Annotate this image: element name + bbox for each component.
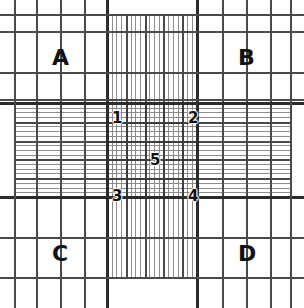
grid-line-vertical-bold	[106, 0, 109, 308]
grid-line-vertical-bold	[196, 0, 199, 308]
center-cell-label-5: 5	[150, 153, 160, 168]
quadrant-label-c: C	[52, 243, 68, 265]
quadrant-label-a: A	[52, 47, 69, 69]
frame-line-left	[14, 0, 16, 308]
frame-line-right	[290, 0, 292, 308]
grid-line-vertical-major	[36, 0, 38, 308]
center-cell-label-1: 1	[112, 111, 122, 126]
grid-line-horizontal-major	[0, 237, 304, 239]
quadrant-label-d: D	[238, 243, 256, 265]
frame-line-bottom	[0, 277, 304, 279]
frame-line-top	[0, 14, 304, 16]
grid-line-horizontal-major	[0, 31, 304, 33]
grid-line-horizontal-bold	[0, 102, 304, 105]
grid-line-vertical-major	[84, 0, 86, 308]
hemocytometer-grid-figure: A B C D 1 2 5 3 4	[0, 0, 304, 308]
grid-line-horizontal-bold	[0, 196, 304, 199]
center-cell-label-2: 2	[188, 111, 198, 126]
center-cell-label-3: 3	[112, 189, 122, 204]
quadrant-label-b: B	[238, 47, 254, 69]
center-cell-label-4: 4	[188, 189, 198, 204]
grid-line-horizontal-major	[0, 72, 304, 74]
hatch-band-top-center-medium	[107, 14, 197, 103]
hatch-band-right-middle-medium	[197, 103, 290, 197]
grid-line-horizontal-major	[0, 99, 304, 101]
grid-line-vertical-major	[270, 0, 272, 308]
grid-line-vertical-major	[222, 0, 224, 308]
